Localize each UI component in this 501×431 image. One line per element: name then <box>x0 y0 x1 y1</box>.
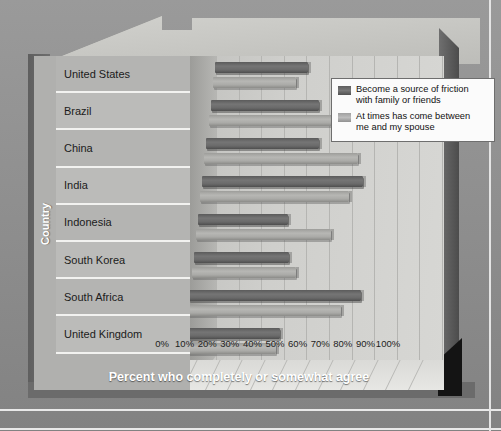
category-label: Brazil <box>56 93 190 130</box>
category-label: United States <box>56 56 190 93</box>
x-axis-tick-label: 80% <box>333 338 352 349</box>
x-axis-tick-label: 100% <box>376 338 400 349</box>
category-label: South Korea <box>56 242 190 279</box>
bar <box>209 115 338 126</box>
x-axis-tick-label: 10% <box>175 338 194 349</box>
legend-swatch-light <box>338 113 351 122</box>
bar <box>204 153 358 164</box>
bar <box>213 77 297 88</box>
legend-item: Become a source of frictionwith family o… <box>338 84 488 106</box>
page-background: Country United StatesBrazilChinaIndiaInd… <box>0 0 501 431</box>
y-axis-title: Country <box>36 154 54 294</box>
page-rule-bottom <box>0 428 501 430</box>
bar-end-cap <box>349 191 352 202</box>
bar <box>200 191 349 202</box>
legend-label-line2: me and my spouse <box>356 122 470 133</box>
chart-3d-container: Country United StatesBrazilChinaIndiaInd… <box>14 8 480 398</box>
x-axis-tick-label: 0% <box>155 338 169 349</box>
bar <box>202 176 362 187</box>
bar-end-cap <box>289 252 292 263</box>
legend-item-label: Become a source of frictionwith family o… <box>356 84 469 106</box>
bar <box>196 229 332 240</box>
bar-end-cap <box>361 290 364 301</box>
bar <box>190 290 361 301</box>
legend-label-line1: Become a source of friction <box>356 84 469 95</box>
page-edge-right <box>489 0 491 431</box>
x-axis-title: Percent who completely or somewhat agree <box>34 364 444 390</box>
x-axis-tick-label: 30% <box>220 338 239 349</box>
bar-end-cap <box>296 267 299 278</box>
category-label: South Africa <box>56 279 190 316</box>
bar <box>190 305 341 316</box>
bar-end-cap <box>319 100 322 111</box>
x-axis-tick-label: 60% <box>288 338 307 349</box>
legend-label-line2: with family or friends <box>356 95 469 106</box>
bar-end-cap <box>308 62 311 73</box>
bar-end-cap <box>331 229 334 240</box>
x-axis-tick-label: 70% <box>311 338 330 349</box>
bar <box>194 252 289 263</box>
x-axis-tick-label: 90% <box>356 338 375 349</box>
bar-end-cap <box>296 77 299 88</box>
category-label: India <box>56 168 190 205</box>
bar <box>211 100 319 111</box>
bar <box>206 138 319 149</box>
bar-end-cap <box>288 214 291 225</box>
page-rule-top <box>0 409 501 411</box>
bar <box>198 214 288 225</box>
bar <box>192 267 296 278</box>
category-label: China <box>56 130 190 167</box>
bar-end-cap <box>363 176 366 187</box>
chart-legend: Become a source of frictionwith family o… <box>331 78 495 142</box>
x-axis-tick-label: 40% <box>243 338 262 349</box>
category-label: Indonesia <box>56 205 190 242</box>
bar-end-cap <box>319 138 322 149</box>
bar-end-cap <box>341 305 344 316</box>
x-axis-tick-labels: 0%10%20%30%40%50%60%70%80%90%100% <box>170 338 438 354</box>
legend-item-label: At times has come betweenme and my spous… <box>356 111 470 133</box>
legend-label-line1: At times has come between <box>356 111 470 122</box>
bar-end-cap <box>358 153 361 164</box>
x-axis-tick-label: 20% <box>198 338 217 349</box>
x-axis-tick-label: 50% <box>265 338 284 349</box>
legend-swatch-dark <box>338 86 351 95</box>
legend-item: At times has come betweenme and my spous… <box>338 111 488 133</box>
bar <box>215 62 308 73</box>
